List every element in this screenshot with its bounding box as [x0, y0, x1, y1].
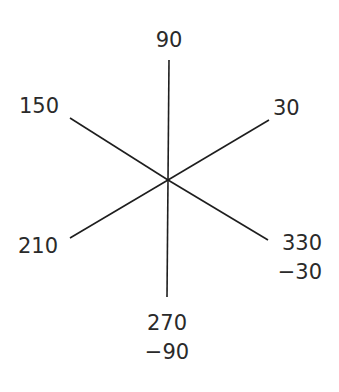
- ray-330: [168, 180, 268, 240]
- label-210: 210: [18, 232, 58, 261]
- label-270: 270 −90: [137, 309, 197, 367]
- label-150: 150: [19, 92, 59, 121]
- label-270-text: 270: [137, 309, 197, 338]
- label-330-text: 330: [266, 229, 322, 258]
- label-90: 90: [139, 26, 199, 55]
- ray-270: [167, 180, 168, 297]
- ray-30: [168, 120, 269, 180]
- label-150-text: 150: [19, 92, 59, 121]
- label-210-text: 210: [18, 232, 58, 261]
- label-neg30-text: −30: [266, 258, 322, 287]
- ray-210: [70, 180, 168, 238]
- label-30: 30: [273, 94, 300, 123]
- label-neg90-text: −90: [137, 338, 197, 367]
- label-90-text: 90: [139, 26, 199, 55]
- label-30-text: 30: [273, 94, 300, 123]
- label-330: 330 −30: [266, 229, 322, 287]
- ray-150: [70, 118, 168, 180]
- ray-90: [168, 60, 169, 180]
